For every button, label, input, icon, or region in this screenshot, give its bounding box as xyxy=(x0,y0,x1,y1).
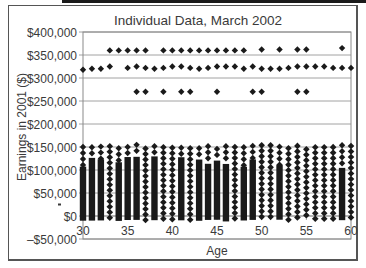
dense-column xyxy=(89,158,95,221)
data-point xyxy=(348,214,355,221)
data-point xyxy=(107,214,114,221)
data-point xyxy=(276,66,282,72)
data-point xyxy=(98,66,104,72)
data-point xyxy=(196,151,202,157)
data-point xyxy=(107,63,113,69)
data-point xyxy=(142,89,148,95)
data-point xyxy=(303,212,310,219)
data-point xyxy=(232,47,238,53)
data-point xyxy=(142,65,148,71)
y-tick-label: $50,000 xyxy=(34,187,78,201)
data-point xyxy=(294,214,301,221)
data-point xyxy=(241,66,247,72)
dense-column xyxy=(205,164,211,220)
data-point xyxy=(339,45,345,51)
data-point xyxy=(169,47,175,53)
dense-column xyxy=(196,160,202,221)
data-point xyxy=(312,63,318,69)
y-tick-label: –$50,000 xyxy=(27,233,77,247)
x-tick-label: 55 xyxy=(300,224,314,238)
dense-column xyxy=(339,168,345,220)
data-point xyxy=(294,89,300,95)
data-point xyxy=(330,65,336,71)
data-point xyxy=(142,217,149,224)
data-point xyxy=(258,46,264,52)
data-point xyxy=(187,65,193,71)
data-point xyxy=(160,65,166,71)
data-point xyxy=(116,151,122,157)
data-point xyxy=(303,89,309,95)
tick-mark xyxy=(58,204,61,206)
dense-column xyxy=(98,159,104,220)
data-point xyxy=(267,66,273,72)
data-point xyxy=(116,47,122,53)
data-point xyxy=(80,156,86,162)
y-tick-label: $150,000 xyxy=(27,141,77,155)
data-point xyxy=(196,145,202,151)
data-point xyxy=(250,89,256,95)
data-point xyxy=(205,149,211,155)
data-point xyxy=(89,66,95,72)
data-point xyxy=(294,63,300,69)
data-point xyxy=(312,215,319,222)
data-point xyxy=(151,143,157,149)
data-points xyxy=(80,45,355,223)
data-point xyxy=(241,144,247,150)
data-point xyxy=(187,89,193,95)
data-point xyxy=(241,47,247,53)
data-point xyxy=(285,65,291,71)
data-point xyxy=(214,63,220,69)
dense-column xyxy=(151,156,157,220)
data-point xyxy=(160,47,166,53)
data-point xyxy=(303,63,309,69)
data-point xyxy=(223,63,229,69)
data-point xyxy=(80,150,86,156)
data-point xyxy=(178,144,184,150)
data-point xyxy=(133,89,139,95)
data-point xyxy=(339,142,345,148)
y-tick-label: $300,000 xyxy=(27,72,77,86)
data-point xyxy=(214,47,220,53)
data-point xyxy=(196,66,202,72)
data-point xyxy=(232,63,238,69)
data-point xyxy=(339,65,345,71)
data-point xyxy=(250,149,256,155)
data-point xyxy=(348,65,354,71)
data-point xyxy=(276,150,282,156)
data-point xyxy=(223,155,229,161)
data-point xyxy=(133,148,139,154)
scatter-plot: $400,000$350,000$300,000$250,000$200,000… xyxy=(0,0,366,268)
data-point xyxy=(124,150,130,156)
y-tick-label: $250,000 xyxy=(27,95,77,109)
dense-column xyxy=(214,161,220,220)
data-point xyxy=(258,89,264,95)
data-point xyxy=(107,47,113,53)
data-point xyxy=(124,144,130,150)
data-point xyxy=(285,217,292,224)
y-tick-label: $0 xyxy=(64,210,78,224)
dense-column xyxy=(116,162,122,221)
data-point xyxy=(133,63,139,69)
data-point xyxy=(205,155,211,161)
data-point xyxy=(178,150,184,156)
data-point xyxy=(223,47,229,53)
data-point xyxy=(116,145,122,151)
x-tick-label: 60 xyxy=(344,224,358,238)
data-point xyxy=(205,47,211,53)
data-point xyxy=(339,160,345,166)
y-tick-label: $350,000 xyxy=(27,49,77,63)
data-point xyxy=(276,144,282,150)
data-point xyxy=(214,152,220,158)
data-point xyxy=(196,47,202,53)
x-tick-label: 40 xyxy=(166,224,180,238)
data-point xyxy=(142,47,148,53)
dense-column xyxy=(250,159,256,220)
data-point xyxy=(178,47,184,53)
data-point xyxy=(223,143,229,149)
data-point xyxy=(339,148,345,154)
data-point xyxy=(80,144,86,150)
data-point xyxy=(160,215,167,222)
dense-column xyxy=(80,167,86,221)
data-point xyxy=(80,67,86,73)
data-point xyxy=(214,89,220,95)
